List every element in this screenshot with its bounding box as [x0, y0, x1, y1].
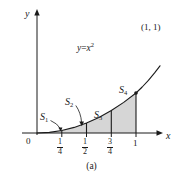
fraction-denominator: 4	[107, 147, 113, 156]
region-label-index: 2	[70, 101, 73, 108]
y-axis-label: y	[25, 9, 29, 19]
x-axis-arrowhead	[157, 130, 164, 135]
fraction-one-quarter: 1 4	[57, 138, 63, 156]
x-tick-label-three-quarters: 3 4	[107, 138, 113, 156]
x-tick-label-one: 1	[133, 139, 138, 148]
curve-equation-label: y=x2	[77, 42, 94, 54]
x-tick-label-one-half: 1 2	[82, 138, 88, 156]
origin-label: 0	[26, 137, 31, 146]
s1-leader-arrow	[51, 121, 61, 129]
region-label-index: 3	[99, 114, 102, 121]
fraction-numerator: 1	[82, 138, 88, 146]
region-label-s4: S4	[119, 85, 127, 95]
region-label-s1: S1	[40, 112, 48, 122]
fraction-three-quarters: 3 4	[107, 138, 113, 156]
region-label-index: 4	[124, 89, 127, 96]
fraction-numerator: 3	[107, 138, 113, 146]
figure-caption: (a)	[0, 161, 183, 171]
region-label-s3: S3	[94, 110, 102, 120]
region-label-s2: S2	[65, 97, 73, 107]
x-axis-label: x	[166, 131, 170, 141]
figure-container: y x 0 1 4 1 2 3 4 1 y=x2 (1, 1) S1 S2	[0, 0, 183, 179]
y-axis-arrowhead	[34, 9, 39, 16]
fraction-one-half: 1 2	[82, 138, 88, 156]
x-tick-label-one-quarter: 1 4	[57, 138, 63, 156]
s2-leader-arrow	[76, 106, 82, 123]
point-marker-1-1	[134, 91, 138, 95]
region-label-index: 1	[45, 116, 48, 123]
fraction-denominator: 4	[57, 147, 63, 156]
equation-exponent: 2	[91, 41, 94, 48]
fraction-numerator: 1	[57, 138, 63, 146]
fraction-denominator: 2	[82, 147, 88, 156]
point-label-1-1: (1, 1)	[141, 23, 161, 32]
